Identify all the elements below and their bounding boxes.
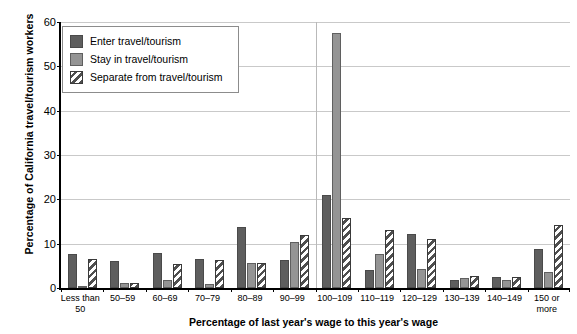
bar-separate [257, 263, 266, 288]
x-axis-tick-labels: Less than 5050–5960–6970–7980–8990–99100… [59, 293, 568, 314]
bar-separate [300, 235, 309, 288]
bar-stay [417, 269, 426, 288]
bar-enter [68, 254, 77, 288]
bar-enter [110, 261, 119, 288]
bar-separate [427, 239, 436, 288]
x-axis-tick-mark [528, 288, 529, 292]
x-axis-tick-label: 70–79 [186, 293, 228, 314]
bar-enter [280, 260, 289, 288]
x-axis-tick-label: 60–69 [144, 293, 186, 314]
x-axis-tick-mark [485, 288, 486, 292]
bar-stay [460, 278, 469, 288]
bar-group [528, 22, 570, 288]
y-axis-tick-label: 40 [44, 105, 56, 117]
y-axis-tick-label: 10 [44, 238, 56, 250]
bar-separate [130, 283, 139, 288]
legend-item-enter: Enter travel/tourism [70, 32, 231, 50]
x-axis-tick-mark [146, 288, 147, 292]
bar-stay [163, 280, 172, 288]
legend-swatch-enter-icon [70, 35, 83, 48]
bar-group [316, 22, 358, 288]
bar-enter [322, 195, 331, 288]
x-axis-tick-mark [400, 288, 401, 292]
x-axis-tick-mark [316, 288, 317, 292]
legend-swatch-separate-icon [70, 71, 83, 84]
bar-separate [215, 260, 224, 288]
bar-group [358, 22, 400, 288]
legend-label-stay: Stay in travel/tourism [90, 53, 188, 65]
x-axis-tick-label: 140–149 [483, 293, 525, 314]
y-axis-tick-label: 60 [44, 16, 56, 28]
bar-separate [470, 276, 479, 288]
x-axis-tick-mark [61, 288, 62, 292]
legend-item-separate: Separate from travel/tourism [70, 68, 231, 86]
bar-separate [512, 277, 521, 288]
bar-stay [120, 283, 129, 288]
bar-chart: Percentage of California travel/tourism … [0, 0, 577, 334]
x-axis-tick-label: 100–109 [314, 293, 356, 314]
bar-stay [544, 272, 553, 288]
x-axis-title: Percentage of last year's wage to this y… [59, 316, 568, 328]
bar-group [443, 22, 485, 288]
bar-enter [153, 253, 162, 288]
bar-group [485, 22, 527, 288]
bar-group [400, 22, 442, 288]
bar-enter [237, 227, 246, 288]
bar-separate [554, 225, 563, 288]
x-axis-tick-label: 110–119 [356, 293, 398, 314]
legend-label-separate: Separate from travel/tourism [90, 71, 222, 83]
category-separator-line [316, 22, 317, 288]
y-axis-title: Percentage of California travel/tourism … [23, 9, 35, 259]
x-axis-tick-mark [188, 288, 189, 292]
bar-stay [502, 280, 511, 288]
bar-separate [385, 230, 394, 288]
bar-stay [247, 263, 256, 288]
x-axis-tick-mark [358, 288, 359, 292]
legend-item-stay: Stay in travel/tourism [70, 50, 231, 68]
legend: Enter travel/tourism Stay in travel/tour… [62, 26, 239, 93]
bar-stay [205, 284, 214, 288]
x-axis-tick-mark [273, 288, 274, 292]
x-axis-tick-label: 50–59 [101, 293, 143, 314]
bar-stay [332, 33, 341, 288]
x-axis-tick-mark [443, 288, 444, 292]
y-axis-tick-label: 30 [44, 149, 56, 161]
legend-label-enter: Enter travel/tourism [90, 35, 181, 47]
bar-enter [534, 249, 543, 288]
bar-enter [365, 270, 374, 288]
bar-enter [450, 280, 459, 288]
y-axis-tick-label: 20 [44, 193, 56, 205]
bar-enter [492, 277, 501, 288]
bar-enter [407, 234, 416, 288]
bar-enter [195, 259, 204, 288]
bar-stay [375, 254, 384, 288]
x-axis-tick-mark [231, 288, 232, 292]
y-axis-tick-label: 0 [50, 282, 56, 294]
bar-separate [342, 218, 351, 288]
bar-separate [88, 259, 97, 288]
x-axis-tick-label: 150 or more [526, 293, 568, 314]
x-axis-tick-label: 90–99 [271, 293, 313, 314]
x-axis-tick-label: 120–129 [398, 293, 440, 314]
x-axis-tick-mark [569, 288, 570, 292]
bar-stay [290, 242, 299, 288]
legend-swatch-stay-icon [70, 53, 83, 66]
bar-group [273, 22, 315, 288]
y-axis-tick-label: 50 [44, 60, 56, 72]
x-axis-tick-mark [103, 288, 104, 292]
bar-separate [173, 264, 182, 288]
x-axis-tick-label: Less than 50 [59, 293, 101, 314]
bar-stay [78, 286, 87, 288]
x-axis-tick-label: 80–89 [229, 293, 271, 314]
x-axis-tick-label: 130–139 [441, 293, 483, 314]
